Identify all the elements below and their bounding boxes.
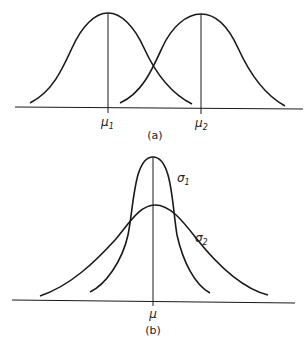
label-mu2: μ2 (194, 116, 208, 132)
label-sigma2: σ2 (195, 231, 208, 247)
curve-mu2 (120, 14, 285, 106)
caption-b: (b) (145, 324, 161, 337)
label-mu1: μ1 (100, 115, 114, 131)
caption-a: (a) (147, 129, 162, 142)
panel-a: μ1 μ2 (a) (15, 13, 303, 142)
label-sigma1: σ1 (177, 171, 190, 187)
curve-mu1 (30, 13, 192, 104)
panel-b: σ1 σ2 μ (b) (12, 157, 295, 337)
panel-a-x-axis (15, 107, 303, 109)
label-mu: μ (148, 307, 157, 321)
curve-sigma1 (90, 157, 210, 293)
curve-sigma2 (40, 205, 268, 296)
normal-distributions-figure: μ1 μ2 (a) σ1 σ2 μ (b) (0, 0, 308, 348)
